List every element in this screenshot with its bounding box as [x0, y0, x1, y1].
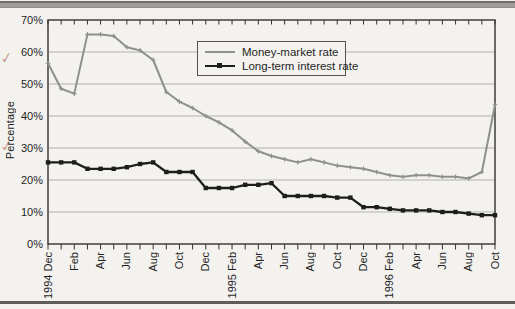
bottom-horizontal-rule: [0, 301, 515, 304]
x-axis-tick-label: Aug: [147, 252, 160, 272]
y-axis-tick-label: 60%: [5, 46, 43, 58]
x-axis-tick-label: Apr: [410, 252, 423, 269]
interest-rate-line-chart: Percentage 0%10%20%30%40%50%60%70% 1994 …: [0, 0, 515, 300]
data-point-marker: [85, 32, 90, 37]
data-point-marker: [427, 208, 431, 212]
data-point-marker: [72, 160, 76, 164]
legend-row-long-term: Long-term interest rate: [205, 59, 339, 73]
y-axis-tick-label: 40%: [5, 110, 43, 122]
data-point-marker: [230, 186, 234, 190]
data-point-marker: [46, 160, 50, 164]
data-point-marker: [98, 32, 103, 37]
data-point-marker: [243, 183, 247, 187]
x-axis-tick-label: Aug: [304, 252, 317, 272]
data-point-marker: [282, 194, 286, 198]
data-point-marker: [361, 205, 365, 209]
x-axis-tick-label: 1996 Feb: [383, 252, 396, 298]
data-point-marker: [177, 170, 181, 174]
x-axis-tick-label: Jun: [278, 252, 291, 270]
data-point-marker: [374, 205, 378, 209]
data-point-marker: [414, 173, 419, 178]
x-axis-tick-label: Dec: [199, 252, 212, 272]
data-point-marker: [190, 170, 194, 174]
data-point-marker: [296, 194, 300, 198]
x-axis-tick-label: Oct: [173, 252, 186, 269]
x-axis-tick-label: Aug: [462, 252, 475, 272]
legend-label-money-market: Money-market rate: [242, 46, 339, 59]
data-point-marker: [374, 170, 379, 175]
data-point-marker: [164, 170, 168, 174]
data-point-marker: [322, 160, 327, 165]
data-point-marker: [151, 160, 155, 164]
x-axis-tick-label: 1995 Feb: [226, 252, 239, 298]
y-axis-tick-label: 70%: [5, 14, 43, 26]
data-point-marker: [217, 186, 221, 190]
data-point-marker: [493, 213, 497, 217]
data-point-marker: [309, 157, 314, 162]
data-point-marker: [388, 207, 392, 211]
data-point-marker: [112, 167, 116, 171]
x-axis-tick-label: Oct: [331, 252, 344, 269]
x-axis-tick-label: Jun: [436, 252, 449, 270]
x-axis-tick-label: Feb: [68, 252, 81, 271]
data-point-marker: [85, 167, 89, 171]
data-point-marker: [401, 208, 405, 212]
x-axis-tick-label: Jun: [120, 252, 133, 270]
data-point-marker: [256, 183, 260, 187]
data-point-marker: [440, 210, 444, 214]
chart-legend: Money-market rate Long-term interest rat…: [197, 41, 346, 76]
data-point-marker: [138, 162, 142, 166]
data-point-marker: [98, 167, 102, 171]
y-axis-tick-label: 30%: [5, 142, 43, 154]
y-axis-tick-label: 0%: [5, 238, 43, 250]
data-point-marker: [335, 195, 339, 199]
data-point-marker: [335, 163, 340, 168]
scanned-page: ✓ ✓ Percentage 0%10%20%30%40%50%60%70% 1…: [0, 0, 515, 309]
data-point-marker: [493, 103, 498, 108]
legend-row-money-market: Money-market rate: [205, 45, 339, 59]
y-axis-tick-label: 10%: [5, 206, 43, 218]
data-point-marker: [414, 208, 418, 212]
x-axis-tick-label: Dec: [357, 252, 370, 272]
y-axis-tick-label: 50%: [5, 78, 43, 90]
data-point-marker: [322, 194, 326, 198]
data-point-marker: [480, 213, 484, 217]
data-point-marker: [348, 195, 352, 199]
data-point-marker: [427, 173, 432, 178]
data-point-marker: [348, 165, 353, 170]
data-point-marker: [401, 175, 406, 180]
data-point-marker: [453, 175, 458, 180]
money-market-line-swatch: [205, 49, 235, 55]
long-term-line-swatch: [205, 63, 235, 69]
y-axis-tick-label: 20%: [5, 174, 43, 186]
x-axis-tick-label: 1994 Dec: [42, 252, 55, 299]
data-point-marker: [453, 210, 457, 214]
legend-label-long-term: Long-term interest rate: [242, 60, 358, 73]
data-point-marker: [467, 211, 471, 215]
data-point-marker: [125, 165, 129, 169]
data-point-marker: [295, 160, 300, 165]
data-point-marker: [204, 186, 208, 190]
x-axis-tick-label: Oct: [489, 252, 502, 269]
data-point-marker: [440, 175, 445, 180]
data-point-marker: [269, 181, 273, 185]
data-point-marker: [59, 160, 63, 164]
data-point-marker: [388, 173, 393, 178]
data-point-marker: [361, 167, 366, 172]
x-axis-tick-label: Apr: [94, 252, 107, 269]
x-axis-tick-label: Apr: [252, 252, 265, 269]
data-point-marker: [309, 194, 313, 198]
data-point-marker: [282, 157, 287, 162]
